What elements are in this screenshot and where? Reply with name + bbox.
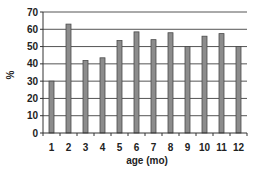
x-tick-label: 5 xyxy=(117,142,123,153)
x-tick-label: 12 xyxy=(233,142,245,153)
x-tick-label: 7 xyxy=(151,142,157,153)
x-tick-label: 1 xyxy=(49,142,55,153)
y-axis-label: % xyxy=(5,70,16,79)
bar-8 xyxy=(168,33,173,133)
y-tick-label: 30 xyxy=(27,76,39,87)
y-tick-label: 0 xyxy=(32,128,38,139)
y-tick-labels: 010203040506070 xyxy=(27,7,43,139)
bar-chart: 010203040506070 123456789101112 % age (m… xyxy=(0,0,255,176)
x-tick-label: 11 xyxy=(216,142,227,153)
bar-2 xyxy=(66,24,71,133)
x-tick-label: 8 xyxy=(168,142,174,153)
x-tick-label: 2 xyxy=(66,142,72,153)
bar-3 xyxy=(83,60,88,133)
y-tick-label: 20 xyxy=(27,93,39,104)
x-tick-label: 3 xyxy=(83,142,89,153)
bar-7 xyxy=(151,40,156,133)
x-axis-label: age (mo) xyxy=(126,155,168,166)
bar-12 xyxy=(236,47,241,133)
y-tick-label: 40 xyxy=(27,58,39,69)
x-tick-label: 9 xyxy=(185,142,191,153)
bars xyxy=(49,24,241,133)
y-tick-label: 50 xyxy=(27,41,39,52)
x-tick-label: 4 xyxy=(100,142,106,153)
x-tick-labels: 123456789101112 xyxy=(43,133,247,153)
x-tick-label: 10 xyxy=(199,142,211,153)
bar-4 xyxy=(100,58,105,133)
bar-6 xyxy=(134,32,139,133)
x-tick-label: 6 xyxy=(134,142,140,153)
bar-5 xyxy=(117,41,122,133)
y-tick-label: 70 xyxy=(27,7,39,18)
bar-10 xyxy=(202,36,207,133)
bar-9 xyxy=(185,47,190,133)
bar-1 xyxy=(49,81,54,133)
bar-11 xyxy=(219,34,224,133)
axes xyxy=(43,12,247,133)
y-tick-label: 10 xyxy=(27,110,39,121)
y-tick-label: 60 xyxy=(27,24,39,35)
gridlines xyxy=(43,12,247,116)
